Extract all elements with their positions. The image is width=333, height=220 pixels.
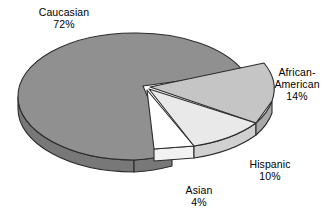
slice-label-african-american-value: 14% — [262, 90, 332, 102]
slice-label-asian-value: 4% — [166, 196, 232, 208]
slice-label-caucasian-name: Caucasian — [18, 6, 110, 18]
slice-label-asian: Asian 4% — [166, 184, 232, 208]
slice-label-caucasian-value: 72% — [18, 18, 110, 30]
pie-chart-figure: Caucasian 72% African- American 14% Hisp… — [0, 0, 333, 220]
slice-label-hispanic: Hispanic 10% — [232, 158, 308, 182]
slice-label-caucasian: Caucasian 72% — [18, 6, 110, 30]
slice-label-african-american-name2: American — [262, 78, 332, 90]
slice-label-african-american-name1: African- — [262, 66, 332, 78]
slice-label-hispanic-value: 10% — [232, 170, 308, 182]
slice-label-african-american: African- American 14% — [262, 66, 332, 103]
slice-label-asian-name: Asian — [166, 184, 232, 196]
slice-label-hispanic-name: Hispanic — [232, 158, 308, 170]
